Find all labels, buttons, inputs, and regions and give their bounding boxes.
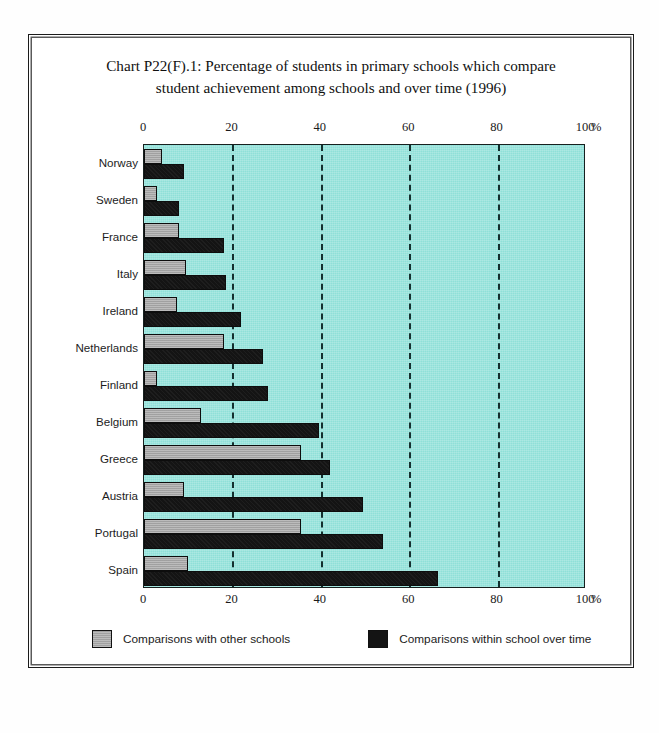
chart-title: Chart P22(F).1: Percentage of students i… (69, 55, 593, 98)
chart-legend: Comparisons with other schoolsComparison… (58, 622, 604, 656)
bar-portugal-series-2 (144, 534, 383, 549)
bar-portugal-series-1 (144, 519, 301, 534)
category-label-belgium: Belgium (18, 415, 138, 428)
chart-page: Chart P22(F).1: Percentage of students i… (0, 0, 659, 733)
gridline-80 (498, 145, 500, 587)
bar-norway-series-2 (144, 164, 184, 179)
bar-italy-series-1 (144, 260, 186, 275)
category-label-finland: Finland (18, 378, 138, 391)
category-label-italy: Italy (18, 267, 138, 280)
gridline-60 (409, 145, 411, 587)
category-label-france: France (18, 230, 138, 243)
x-axis-top-tick-60: 60 (402, 120, 415, 135)
category-label-sweden: Sweden (18, 193, 138, 206)
legend-item-1[interactable]: Comparisons with other schools (92, 630, 290, 648)
bar-netherlands-series-2 (144, 349, 263, 364)
chart-title-line-2: student achievement among schools and ov… (69, 77, 593, 99)
x-axis-bottom-tick-0: 0 (140, 592, 146, 607)
legend-label-2: Comparisons within school over time (399, 632, 591, 646)
bar-netherlands-series-1 (144, 334, 224, 349)
bar-ireland-series-2 (144, 312, 241, 327)
x-axis-bottom-tick-60: 60 (402, 592, 415, 607)
x-axis-top-tick-20: 20 (225, 120, 238, 135)
bar-france-series-1 (144, 223, 179, 238)
category-label-portugal: Portugal (18, 526, 138, 539)
bar-finland-series-1 (144, 371, 157, 386)
plot-area (143, 144, 585, 588)
bar-greece-series-1 (144, 445, 301, 460)
x-axis-bottom-tick-80: 80 (490, 592, 503, 607)
category-label-ireland: Ireland (18, 304, 138, 317)
bar-belgium-series-1 (144, 408, 201, 423)
category-label-netherlands: Netherlands (18, 341, 138, 354)
bar-spain-series-1 (144, 556, 188, 571)
bar-austria-series-1 (144, 482, 184, 497)
x-axis-unit-label: % (591, 120, 601, 135)
category-label-norway: Norway (18, 156, 138, 169)
x-axis-unit-label: % (591, 592, 601, 607)
bar-sweden-series-1 (144, 186, 157, 201)
x-axis-top-tick-80: 80 (490, 120, 503, 135)
bar-austria-series-2 (144, 497, 363, 512)
x-axis-top-tick-0: 0 (140, 120, 146, 135)
category-label-spain: Spain (18, 563, 138, 576)
x-axis-top: 020406080100% (143, 120, 585, 136)
bar-spain-series-2 (144, 571, 438, 586)
x-axis-bottom: 020406080100% (143, 592, 585, 608)
bar-greece-series-2 (144, 460, 330, 475)
legend-label-1: Comparisons with other schools (123, 632, 290, 646)
black-swatch (368, 630, 388, 648)
y-axis-category-labels: NorwaySwedenFranceItalyIrelandNetherland… (12, 144, 138, 588)
x-axis-top-tick-40: 40 (314, 120, 327, 135)
gridline-40 (321, 145, 323, 587)
x-axis-bottom-tick-20: 20 (225, 592, 238, 607)
bar-finland-series-2 (144, 386, 268, 401)
bar-ireland-series-1 (144, 297, 177, 312)
bar-france-series-2 (144, 238, 224, 253)
bar-sweden-series-2 (144, 201, 179, 216)
bar-belgium-series-2 (144, 423, 319, 438)
category-label-austria: Austria (18, 489, 138, 502)
bar-norway-series-1 (144, 149, 162, 164)
gray-swatch (92, 630, 112, 648)
category-label-greece: Greece (18, 452, 138, 465)
x-axis-bottom-tick-40: 40 (314, 592, 327, 607)
legend-item-2[interactable]: Comparisons within school over time (368, 630, 591, 648)
bar-italy-series-2 (144, 275, 226, 290)
chart-title-line-1: Chart P22(F).1: Percentage of students i… (69, 55, 593, 77)
